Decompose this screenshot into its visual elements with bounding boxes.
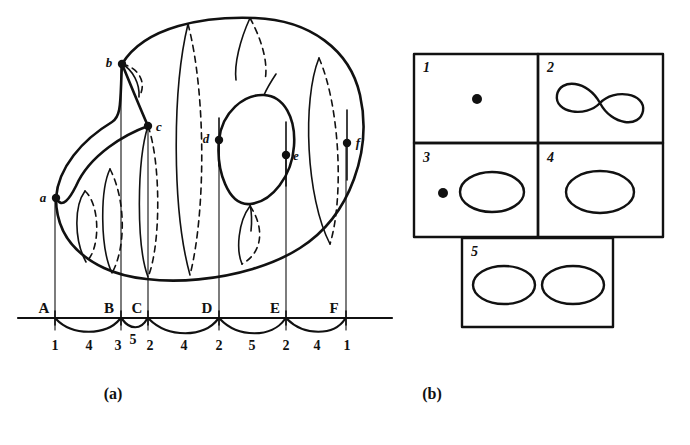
interval-number-10: 1 xyxy=(344,338,351,353)
cell-1-number: 1 xyxy=(423,60,430,75)
interval-number-0: 1 xyxy=(52,338,59,353)
contour-front-3 xyxy=(139,126,148,277)
interval-number-3: 5 xyxy=(130,332,137,347)
cell-4-circle-icon xyxy=(566,171,634,213)
interval-number-4: 2 xyxy=(147,338,154,353)
contour-back-4 xyxy=(188,24,202,275)
cell-5-circle-right-icon xyxy=(542,266,604,304)
contour-front-6 xyxy=(239,206,250,264)
contour-back-3 xyxy=(148,126,158,277)
interval-number-1: 4 xyxy=(86,338,93,353)
axis-interval-numbers: 1 4 3 5 2 4 2 5 2 4 1 xyxy=(52,332,351,353)
critical-point-b xyxy=(118,60,126,68)
panel-a-caption: (a) xyxy=(104,385,123,403)
cell-4-number: 4 xyxy=(546,150,554,165)
levelset-cell-5: 5 xyxy=(462,238,613,327)
levelset-cell-2: 2 xyxy=(538,54,663,143)
cell-3-box xyxy=(414,143,538,237)
cell-3-circle-icon xyxy=(460,172,524,212)
interval-number-6: 2 xyxy=(216,338,223,353)
axis-label-C: C xyxy=(132,300,143,316)
contour-back-7 xyxy=(319,58,338,244)
interval-number-2: 3 xyxy=(115,338,122,353)
critical-point-label-b: b xyxy=(106,55,113,70)
panel-b-caption: (b) xyxy=(422,385,442,403)
surface-hole-outline xyxy=(219,95,295,204)
figure-svg: a b c d e f xyxy=(0,0,690,445)
cell-5-circle-left-icon xyxy=(473,266,535,304)
cell-2-number: 2 xyxy=(546,60,554,75)
contour-front-2 xyxy=(103,169,112,273)
axis-label-F: F xyxy=(329,300,338,316)
critical-point-label-a: a xyxy=(40,190,47,205)
interval-number-7: 5 xyxy=(249,338,256,353)
critical-point-label-d: d xyxy=(203,131,210,146)
contour-back-2 xyxy=(110,169,122,273)
critical-point-f xyxy=(343,139,351,147)
axis-interval-letters: A B C D E F xyxy=(39,300,339,316)
surface-notch-upper xyxy=(122,64,148,126)
critical-point-label-c: c xyxy=(156,119,162,134)
interval-arc-BC xyxy=(122,319,147,327)
surface-notch-lower xyxy=(56,126,148,203)
contour-front-7 xyxy=(309,58,330,244)
levelset-cell-3: 3 xyxy=(414,143,538,237)
axis-label-D: D xyxy=(202,300,213,316)
axis-label-B: B xyxy=(104,300,114,316)
critical-point-a xyxy=(52,194,60,202)
interval-arc-EF xyxy=(287,319,345,332)
critical-point-label-e: e xyxy=(293,148,299,163)
panel-b-table: 1 2 3 4 xyxy=(414,54,663,327)
cell-4-box xyxy=(538,143,663,237)
surface-outline xyxy=(56,18,363,281)
cell-3-number: 3 xyxy=(422,150,430,165)
interval-arc-CD xyxy=(149,319,218,333)
interval-number-5: 4 xyxy=(181,338,188,353)
interval-arc-AB xyxy=(56,319,120,332)
contour-back-5 xyxy=(250,18,266,80)
interval-number-8: 2 xyxy=(283,338,290,353)
levelset-cell-4: 4 xyxy=(538,143,663,237)
figure-root: a b c d e f xyxy=(0,0,690,445)
cell-5-number: 5 xyxy=(471,244,478,259)
axis-label-E: E xyxy=(270,300,280,316)
interval-number-9: 4 xyxy=(314,338,321,353)
contour-back-1 xyxy=(85,191,97,262)
contour-front-5 xyxy=(236,18,250,80)
cell-5-box xyxy=(462,238,613,327)
cell-3-point-icon xyxy=(438,188,448,198)
contour-front-4 xyxy=(176,24,190,275)
cell-1-point-icon xyxy=(472,94,482,104)
panel-a-axis: A B C D E F 1 4 3 5 2 4 2 5 2 4 1 xyxy=(18,300,392,353)
levelset-cell-1: 1 xyxy=(414,54,538,143)
axis-label-A: A xyxy=(39,300,50,316)
panel-a-surface: a b c d e f xyxy=(40,18,364,330)
cell-2-figure-eight-icon xyxy=(557,84,643,122)
interval-arc-DE xyxy=(220,319,285,333)
